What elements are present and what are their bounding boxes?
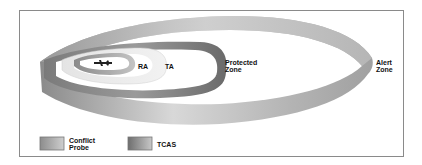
legend-label-conflict-probe: Conflict Probe [69,137,95,151]
protected-zone-label: Protected Zone [225,59,257,73]
alert-zone-label: Alert Zone [376,59,393,73]
conflict-zones-diagram [0,0,422,165]
legend-swatch-conflict-probe [40,137,64,150]
ta-label: TA [165,63,174,70]
ra-label: RA [138,63,148,70]
legend-swatch-tcas [128,137,152,150]
legend-label-tcas: TCAS [157,141,176,148]
